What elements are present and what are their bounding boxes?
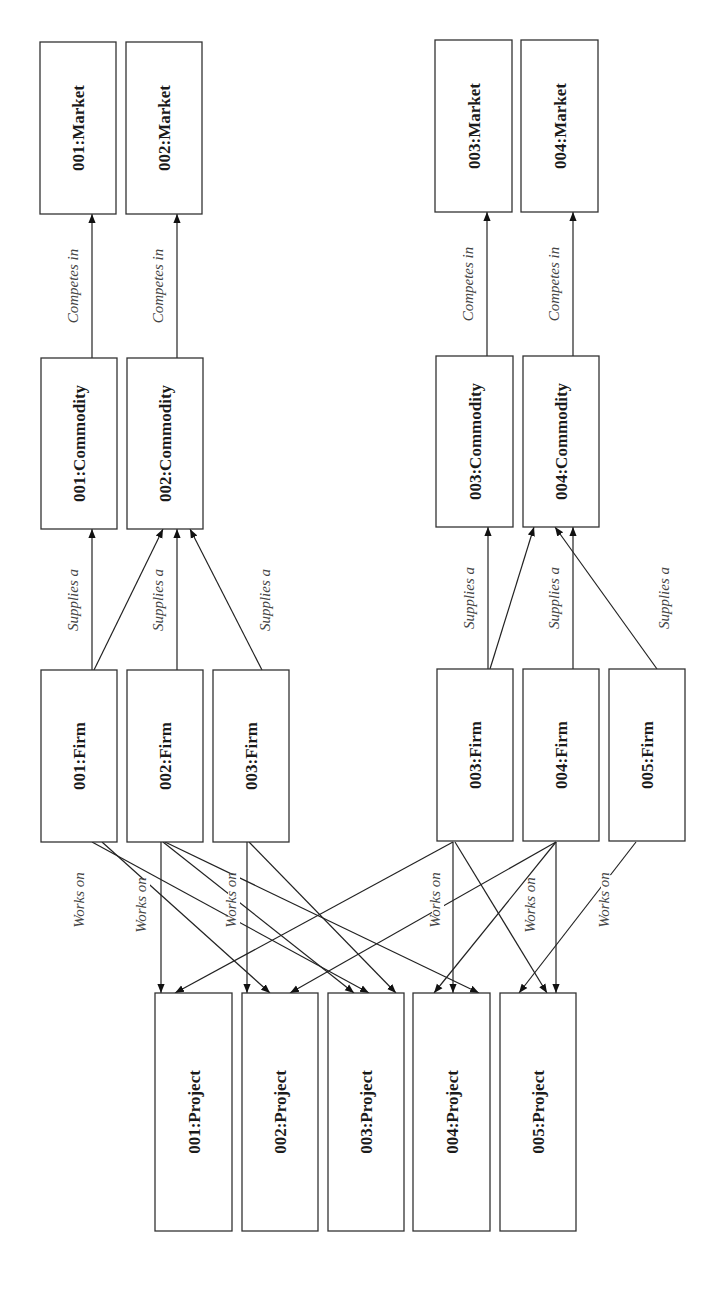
commodity-node: 004:Commodity bbox=[523, 356, 599, 527]
works-on-edge bbox=[290, 842, 556, 993]
competes-in-label: Competes in bbox=[150, 249, 166, 324]
competes-in-label: Competes in bbox=[460, 247, 476, 322]
works-on-edge bbox=[249, 842, 396, 993]
supplies-a-label: Supplies a bbox=[257, 569, 273, 631]
firm-label: 002:Firm bbox=[156, 722, 175, 790]
works-on-edge bbox=[175, 842, 453, 993]
entity-relationship-diagram: Competes inCompetes inCompetes inCompete… bbox=[0, 0, 711, 1292]
market-node: 001:Market bbox=[40, 42, 116, 214]
firm-label: 004:Firm bbox=[552, 721, 571, 789]
project-label: 001:Project bbox=[185, 1070, 204, 1154]
works-on-edge bbox=[163, 842, 354, 993]
supplies-a-label: Supplies a bbox=[461, 567, 477, 629]
competes-in-label: Competes in bbox=[65, 249, 81, 324]
firm-node: 001:Firm bbox=[41, 670, 117, 842]
project-node: 003:Project bbox=[328, 993, 404, 1231]
firm-node: 004:Firm bbox=[523, 669, 599, 841]
commodity-label: 001:Commodity bbox=[70, 384, 89, 502]
supplies-a-edge bbox=[555, 527, 657, 669]
commodity-label: 003:Commodity bbox=[466, 382, 485, 500]
project-node: 001:Project bbox=[155, 993, 232, 1231]
project-label: 002:Project bbox=[271, 1070, 290, 1154]
commodity-node: 001:Commodity bbox=[41, 358, 117, 529]
project-node: 004:Project bbox=[413, 993, 490, 1231]
commodity-node: 003:Commodity bbox=[436, 356, 513, 527]
firm-node: 002:Firm bbox=[127, 670, 203, 842]
project-node: 002:Project bbox=[242, 993, 318, 1231]
market-node: 004:Market bbox=[521, 40, 598, 212]
works-on-edge bbox=[102, 842, 270, 993]
commodity-node: 002:Commodity bbox=[127, 358, 203, 529]
supplies-a-label: Supplies a bbox=[656, 567, 672, 629]
project-label: 005:Project bbox=[529, 1070, 548, 1154]
project-label: 003:Project bbox=[357, 1070, 376, 1154]
works-on-label: Works on bbox=[223, 872, 239, 928]
commodity-label: 002:Commodity bbox=[156, 384, 175, 502]
firm-label: 005:Firm bbox=[638, 721, 657, 789]
works-on-label: Works on bbox=[427, 872, 443, 928]
firm-label: 001:Firm bbox=[70, 722, 89, 790]
firm-node: 003:Firm bbox=[213, 670, 289, 842]
nodes-layer: 001:Market002:Market003:Market004:Market… bbox=[40, 40, 685, 1231]
supplies-a-label: Supplies a bbox=[546, 567, 562, 629]
competes-in-label: Competes in bbox=[546, 247, 562, 322]
project-node: 005:Project bbox=[500, 993, 576, 1231]
market-label: 002:Market bbox=[155, 85, 174, 171]
supplies-a-label: Supplies a bbox=[150, 569, 166, 631]
market-label: 001:Market bbox=[69, 85, 88, 171]
works-on-label: Works on bbox=[596, 872, 612, 928]
works-on-label: Works on bbox=[133, 877, 149, 933]
edges-layer bbox=[92, 212, 657, 993]
commodity-label: 004:Commodity bbox=[552, 382, 571, 500]
works-on-label: Works on bbox=[522, 877, 538, 933]
market-node: 002:Market bbox=[126, 42, 202, 214]
project-label: 004:Project bbox=[443, 1070, 462, 1154]
supplies-a-label: Supplies a bbox=[65, 569, 81, 631]
firm-node: 003:Firm bbox=[437, 669, 513, 841]
firm-label: 003:Firm bbox=[242, 722, 261, 790]
market-label: 004:Market bbox=[551, 83, 570, 169]
supplies-a-edge bbox=[190, 529, 262, 670]
market-node: 003:Market bbox=[435, 40, 512, 212]
firm-node: 005:Firm bbox=[609, 669, 685, 841]
market-label: 003:Market bbox=[465, 83, 484, 169]
works-on-label: Works on bbox=[71, 872, 87, 928]
supplies-a-edge bbox=[490, 527, 534, 669]
firm-label: 003:Firm bbox=[466, 721, 485, 789]
